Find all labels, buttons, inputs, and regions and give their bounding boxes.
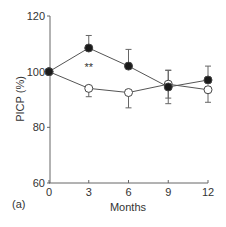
filled-circle-marker <box>45 68 53 76</box>
open-circle-marker <box>85 84 93 92</box>
line-chart: 6080100120036912 ** PICP (%) Months (a) <box>0 0 226 227</box>
x-tick-label: 6 <box>125 186 131 198</box>
filled-circle-marker <box>164 83 172 91</box>
y-tick-label: 60 <box>33 177 45 189</box>
axes: 6080100120036912 <box>27 10 214 198</box>
panel-label: (a) <box>12 198 25 210</box>
x-tick-label: 3 <box>86 186 92 198</box>
y-tick-label: 100 <box>27 66 45 78</box>
y-axis-label: PICP (%) <box>14 76 26 122</box>
open-circle-marker <box>204 86 212 94</box>
open-circle-marker <box>125 89 133 97</box>
filled-circle-marker <box>204 76 212 84</box>
y-tick-label: 80 <box>33 121 45 133</box>
y-tick-label: 120 <box>27 10 45 22</box>
filled-circle-marker <box>85 44 93 52</box>
filled-circle-marker <box>125 62 133 70</box>
x-tick-label: 9 <box>165 186 171 198</box>
x-tick-label: 0 <box>46 186 52 198</box>
x-tick-label: 12 <box>202 186 214 198</box>
series-layer: ** <box>45 35 212 107</box>
x-axis-label: Months <box>110 201 147 213</box>
significance-annotation: ** <box>84 61 93 73</box>
